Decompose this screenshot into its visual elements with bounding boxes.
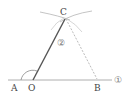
marker-line-1: ① — [114, 75, 122, 85]
label-B: B — [94, 83, 101, 93]
segment-OC — [33, 19, 65, 80]
label-C: C — [60, 7, 67, 17]
label-O: O — [28, 83, 35, 93]
construction-diagram: C A O B ② ① — [0, 0, 125, 97]
angle-arc — [21, 70, 37, 80]
marker-step-2: ② — [57, 38, 65, 48]
segment-CB-dashed — [66, 19, 97, 79]
label-A: A — [10, 83, 18, 93]
